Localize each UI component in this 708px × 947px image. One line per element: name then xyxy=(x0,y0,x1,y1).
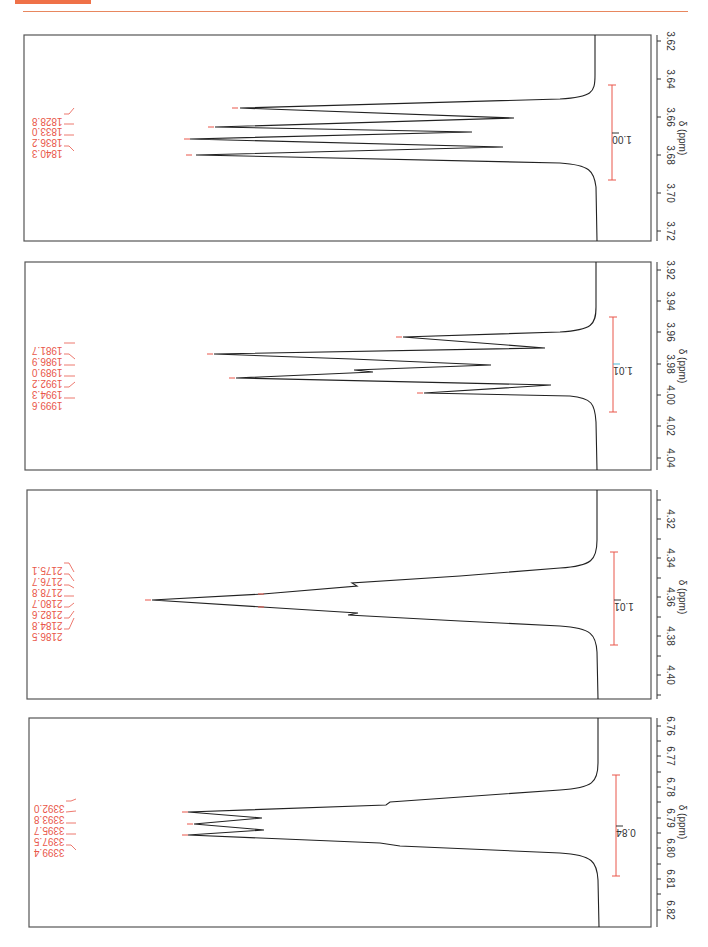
tick-label: 3.98 xyxy=(665,354,676,374)
peak-label: 2180.7 xyxy=(32,598,63,609)
x-axis: 6.76 6.77 6.78 6.79 6.80 6.81 6.82 δ (pp… xyxy=(657,716,688,927)
peak-label: 2178.8 xyxy=(32,587,63,598)
axis-title: δ (ppm) xyxy=(677,121,688,155)
peak-labels: 1828.8 1833.0 1836.2 1840.3 xyxy=(32,108,74,159)
plot-frame xyxy=(25,262,651,470)
peak-label: 1994.3 xyxy=(32,389,63,400)
peak-label: 3397.5 xyxy=(34,836,65,847)
tick-label: 6.76 xyxy=(665,716,676,736)
peak-label: 1981.7 xyxy=(32,345,63,356)
tick-label: 4.36 xyxy=(665,587,676,607)
peak-label: 1833.0 xyxy=(32,126,63,137)
tick-label: 3.94 xyxy=(665,291,676,311)
plot-frame xyxy=(29,718,651,927)
tick-label: 4.34 xyxy=(665,548,676,568)
spectrum-panel-4: 0.84 3392.0 3393.8 3395.7 3397.5 3399.4 … xyxy=(0,718,708,927)
tick-label: 4.38 xyxy=(665,626,676,646)
peak-label: 3395.7 xyxy=(34,825,65,836)
peak-label: 2176.7 xyxy=(32,576,63,587)
axis-title: δ (ppm) xyxy=(677,349,688,383)
peak-label: 1992.2 xyxy=(32,378,63,389)
plot-frame xyxy=(27,490,651,699)
header-rule xyxy=(23,11,688,12)
x-axis: 3.92 3.94 3.96 3.98 4.00 4.02 4.04 δ (pp… xyxy=(657,260,688,470)
peak-label: 1989.0 xyxy=(32,367,63,378)
tick-label: 3.96 xyxy=(665,322,676,342)
peak-label: 3392.0 xyxy=(34,803,65,814)
integral-value: 0.84 xyxy=(616,827,636,838)
peak-label: 2186.5 xyxy=(32,631,63,642)
peak-labels: 2175.1 2176.7 2178.8 2180.7 2182.6 2184.… xyxy=(32,563,74,642)
tick-label: 4.00 xyxy=(665,385,676,405)
tick-label: 3.62 xyxy=(665,31,676,51)
tick-label: 3.92 xyxy=(665,260,676,280)
peak-labels: 1981.7 1986.9 1989.0 1992.2 1994.3 1999.… xyxy=(32,343,75,411)
tick-label: 3.66 xyxy=(665,107,676,127)
tick-label: 4.02 xyxy=(665,416,676,436)
peak-label: 1986.9 xyxy=(32,356,63,367)
x-axis: 3.62 3.64 3.66 3.68 3.70 3.72 δ (ppm) xyxy=(657,31,688,241)
tick-label: 4.40 xyxy=(665,665,676,685)
plot-frame xyxy=(24,35,651,241)
peak-label: 2182.6 xyxy=(32,609,63,620)
tick-label: 4.32 xyxy=(665,509,676,529)
integral-value: 1.00 xyxy=(612,134,632,145)
integral-marker: 1.01 xyxy=(609,317,633,412)
integral-marker: 0.84 xyxy=(612,775,636,876)
tick-label: 6.77 xyxy=(665,746,676,766)
axis-title: δ (ppm) xyxy=(677,805,688,839)
spectrum-trace xyxy=(152,490,598,699)
spectrum-trace xyxy=(214,262,597,470)
tick-label: 6.80 xyxy=(665,838,676,858)
tick-label: 6.79 xyxy=(665,808,676,828)
tick-label: 6.82 xyxy=(665,900,676,920)
integral-value: 1.01 xyxy=(614,601,634,612)
tick-label: 3.64 xyxy=(665,69,676,89)
peak-label: 2184.8 xyxy=(32,620,63,631)
tick-label: 6.78 xyxy=(665,777,676,797)
header-accent-tab xyxy=(15,0,91,4)
spectrum-panel-3: 1.01 2175.1 2176.7 2178.8 2180.7 2182.6 … xyxy=(0,490,708,699)
peak-label: 1828.8 xyxy=(32,116,63,127)
integral-value: 1.01 xyxy=(613,365,633,376)
integral-marker: 1.00 xyxy=(608,85,632,180)
spectrum-panel-1: 1.00 1828.8 1833.0 1836.2 1840.3 3.62 3.… xyxy=(0,35,708,241)
peak-label: 3399.4 xyxy=(34,847,65,858)
spectrum-trace xyxy=(188,718,599,927)
peak-label: 2175.1 xyxy=(32,565,63,576)
axis-title: δ (ppm) xyxy=(677,580,688,614)
tick-label: 4.04 xyxy=(665,448,676,468)
peak-labels: 3392.0 3393.8 3395.7 3397.5 3399.4 xyxy=(34,799,76,858)
peak-label: 3393.8 xyxy=(34,814,65,825)
tick-label: 3.70 xyxy=(665,183,676,203)
peak-label: 1999.6 xyxy=(32,400,63,411)
spectrum-panel-2: 1.01 1981.7 1986.9 1989.0 1992.2 1994.3 … xyxy=(0,262,708,470)
peak-label: 1840.3 xyxy=(32,148,63,159)
x-axis: 4.32 4.34 4.36 4.38 4.40 δ (ppm) xyxy=(657,490,688,699)
tick-label: 3.72 xyxy=(665,221,676,241)
tick-label: 3.68 xyxy=(665,145,676,165)
tick-label: 6.81 xyxy=(665,869,676,889)
integral-marker: 1.01 xyxy=(610,552,634,645)
peak-label: 1836.2 xyxy=(32,137,63,148)
spectrum-trace xyxy=(190,35,597,241)
